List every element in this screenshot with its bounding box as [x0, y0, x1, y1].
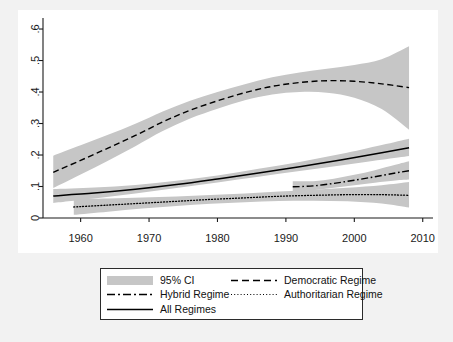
y-tick-label: .4 — [29, 87, 41, 96]
dotted-line-icon — [231, 289, 277, 300]
legend-label-democratic: Democratic Regime — [284, 275, 376, 286]
dash-dot-line-icon — [107, 289, 153, 300]
y-tick-label: 0 — [29, 215, 41, 221]
legend-item-democratic: Democratic Regime — [231, 275, 356, 286]
legend-row: All Regimes — [107, 302, 356, 317]
legend-item-authoritarian: Authoritarian Regime — [231, 289, 356, 300]
shaded-band-icon — [107, 275, 153, 286]
legend-item-all: All Regimes — [107, 304, 235, 315]
legend-row: 95% CI Democratic Regime — [107, 273, 356, 288]
legend-item-ci: 95% CI — [107, 275, 231, 286]
ci-band-democratic-regime — [53, 46, 409, 188]
y-tick-label: .5 — [29, 56, 41, 65]
legend-label-authoritarian: Authoritarian Regime — [284, 289, 383, 300]
x-tick-label: 1970 — [137, 232, 161, 244]
legend-row: Hybrid Regime Authoritarian Regime — [107, 288, 356, 303]
x-tick-label: 1960 — [68, 232, 92, 244]
y-tick-label: .1 — [29, 182, 41, 191]
x-tick-label: 2000 — [342, 232, 366, 244]
chart-figure: 0.1.2.3.4.5.6196019701980199020002010 95… — [0, 0, 453, 342]
y-tick-label: .2 — [29, 150, 41, 159]
chart-canvas: 0.1.2.3.4.5.6196019701980199020002010 — [18, 10, 438, 253]
legend-label-ci: 95% CI — [160, 275, 194, 286]
solid-line-icon — [107, 304, 153, 315]
chart-legend: 95% CI Democratic Regime Hybrid Regime — [100, 268, 363, 320]
x-tick-label: 1990 — [274, 232, 298, 244]
plot-area: 0.1.2.3.4.5.6196019701980199020002010 — [18, 10, 438, 253]
x-tick-label: 1980 — [205, 232, 229, 244]
legend-item-hybrid: Hybrid Regime — [107, 289, 231, 300]
legend-label-all: All Regimes — [160, 304, 216, 315]
x-tick-label: 2010 — [410, 232, 434, 244]
y-tick-label: .3 — [29, 119, 41, 128]
legend-label-hybrid: Hybrid Regime — [160, 289, 229, 300]
y-tick-label: .6 — [29, 24, 41, 33]
dashed-line-icon — [231, 275, 277, 286]
